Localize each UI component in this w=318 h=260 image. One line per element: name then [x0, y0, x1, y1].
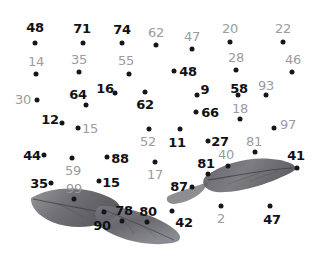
dot-label: 9: [201, 83, 210, 96]
dot-label: 35: [30, 177, 48, 190]
dot-point[interactable]: [145, 220, 150, 225]
dot-point[interactable]: [272, 126, 277, 131]
puzzle-canvas: 4871746247202214355548284630641662958931…: [0, 0, 318, 260]
dot-label: 18: [232, 102, 248, 115]
dot-point[interactable]: [34, 72, 39, 77]
dot-label: 47: [263, 213, 281, 226]
dot-label: 28: [228, 51, 244, 64]
dot-label: 11: [168, 136, 186, 149]
dot-label: 81: [246, 135, 262, 148]
dot-label: 41: [287, 149, 305, 162]
dot-label: 15: [82, 122, 98, 135]
dot-point[interactable]: [153, 160, 158, 165]
dot-label: 35: [71, 53, 87, 66]
dot-label: 14: [28, 55, 44, 68]
dot-point[interactable]: [295, 166, 300, 171]
dot-point[interactable]: [33, 41, 38, 46]
dot-label: 64: [69, 88, 87, 101]
dot-label: 81: [197, 157, 215, 170]
dot-point[interactable]: [228, 40, 233, 45]
dot-layer: 4871746247202214355548284630641662958931…: [0, 0, 318, 260]
dot-label: 30: [15, 93, 31, 106]
dot-point[interactable]: [42, 153, 47, 158]
dot-label: 90: [93, 219, 111, 232]
dot-label: 52: [140, 135, 156, 148]
dot-point[interactable]: [143, 90, 148, 95]
dot-point[interactable]: [105, 155, 110, 160]
dot-point[interactable]: [226, 164, 231, 169]
dot-point[interactable]: [81, 41, 86, 46]
dot-point[interactable]: [72, 197, 77, 202]
dot-point[interactable]: [206, 172, 211, 177]
dot-label: 74: [113, 23, 131, 36]
dot-point[interactable]: [195, 93, 200, 98]
dot-label: 47: [184, 30, 200, 43]
dot-label: 46: [285, 53, 301, 66]
dot-label: 78: [115, 204, 133, 217]
dot-label: 93: [258, 79, 274, 92]
dot-point[interactable]: [206, 139, 211, 144]
dot-point[interactable]: [290, 70, 295, 75]
dot-label: 66: [201, 106, 219, 119]
dot-label: 58: [230, 82, 248, 95]
dot-label: 2: [217, 212, 225, 225]
dot-point[interactable]: [172, 69, 177, 74]
dot-point[interactable]: [234, 68, 239, 73]
dot-point[interactable]: [76, 126, 81, 131]
dot-point[interactable]: [219, 204, 224, 209]
dot-label: 48: [179, 65, 197, 78]
dot-point[interactable]: [268, 204, 273, 209]
dot-label: 62: [148, 26, 164, 39]
dot-label: 15: [102, 176, 120, 189]
dot-label: 16: [96, 82, 114, 95]
dot-point[interactable]: [194, 110, 199, 115]
dot-label: 80: [139, 205, 157, 218]
dot-label: 62: [136, 98, 154, 111]
dot-label: 12: [41, 113, 59, 126]
dot-point[interactable]: [170, 209, 175, 214]
dot-point[interactable]: [190, 47, 195, 52]
dot-point[interactable]: [49, 181, 54, 186]
dot-point[interactable]: [35, 98, 40, 103]
dot-label: 22: [275, 22, 291, 35]
dot-point[interactable]: [127, 72, 132, 77]
dot-label: 87: [170, 180, 188, 193]
dot-point[interactable]: [70, 156, 75, 161]
dot-point[interactable]: [97, 179, 102, 184]
dot-point[interactable]: [190, 185, 195, 190]
dot-label: 20: [222, 22, 238, 35]
dot-label: 88: [111, 152, 129, 165]
dot-point[interactable]: [102, 210, 107, 215]
dot-point[interactable]: [281, 40, 286, 45]
dot-label: 48: [26, 21, 44, 34]
dot-point[interactable]: [84, 103, 89, 108]
dot-label: 44: [23, 149, 41, 162]
dot-label: 40: [218, 148, 234, 161]
dot-label: 71: [73, 22, 91, 35]
dot-point[interactable]: [147, 127, 152, 132]
dot-point[interactable]: [60, 121, 65, 126]
dot-point[interactable]: [120, 219, 125, 224]
dot-point[interactable]: [238, 117, 243, 122]
dot-point[interactable]: [77, 70, 82, 75]
dot-point[interactable]: [154, 43, 159, 48]
dot-label: 42: [175, 216, 193, 229]
dot-label: 97: [280, 118, 296, 131]
dot-label: 59: [65, 164, 81, 177]
dot-label: 55: [118, 54, 134, 67]
dot-label: 99: [66, 182, 82, 195]
dot-point[interactable]: [253, 150, 258, 155]
dot-point[interactable]: [120, 41, 125, 46]
dot-label: 17: [147, 168, 163, 181]
dot-point[interactable]: [264, 93, 269, 98]
dot-point[interactable]: [178, 127, 183, 132]
